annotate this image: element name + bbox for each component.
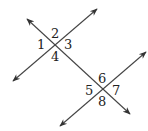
angle-label-4: 4 bbox=[51, 49, 59, 64]
angle-label-7: 7 bbox=[112, 83, 120, 98]
angle-label-6: 6 bbox=[98, 71, 106, 86]
angle-label-2: 2 bbox=[51, 26, 59, 41]
angle-label-5: 5 bbox=[85, 83, 93, 98]
diagram-canvas: 1 2 3 4 5 6 7 8 bbox=[0, 0, 148, 131]
angle-label-8: 8 bbox=[98, 94, 106, 109]
transversal-line bbox=[27, 19, 130, 114]
angle-label-1: 1 bbox=[37, 37, 45, 52]
angle-label-3: 3 bbox=[64, 37, 72, 52]
